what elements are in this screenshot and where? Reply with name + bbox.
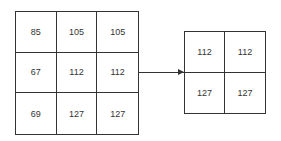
input-cell-r1-c1: 112 bbox=[57, 53, 98, 94]
output-matrix-grid: 112 112 127 127 bbox=[184, 31, 266, 114]
input-cell-r1-c0: 67 bbox=[16, 53, 57, 94]
input-cell-r0-c2: 105 bbox=[97, 12, 138, 53]
output-cell-r1-c1: 127 bbox=[225, 73, 265, 114]
input-cell-r2-c2: 127 bbox=[97, 93, 138, 134]
input-cell-r2-c1: 127 bbox=[57, 93, 98, 134]
input-cell-r1-c2: 112 bbox=[97, 53, 138, 94]
input-matrix-grid: 85 105 105 67 112 112 69 127 127 bbox=[15, 11, 139, 135]
output-cell-r0-c1: 112 bbox=[225, 32, 265, 73]
input-cell-r0-c0: 85 bbox=[16, 12, 57, 53]
output-cell-r1-c0: 127 bbox=[185, 73, 225, 114]
output-cell-r0-c0: 112 bbox=[185, 32, 225, 73]
input-cell-r0-c1: 105 bbox=[57, 12, 98, 53]
input-cell-r2-c0: 69 bbox=[16, 93, 57, 134]
